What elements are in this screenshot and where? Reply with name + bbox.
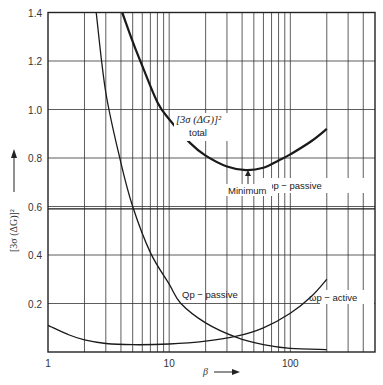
y-tick-label: 1.4 (28, 8, 42, 19)
total-curve (122, 13, 327, 171)
x-tick-label: 10 (164, 358, 176, 369)
total-label-line2: total (189, 127, 207, 138)
chart: 0.20.40.60.81.01.21.4 110100 ωp − passiv… (0, 0, 383, 385)
wp-active-label: ωp − active (309, 292, 357, 303)
y-tick-label: 1.2 (28, 56, 42, 67)
x-axis-label: β (202, 366, 208, 377)
y-axis-label: [3σ (ΔG)]² (8, 209, 20, 252)
x-tick-label: 100 (282, 358, 299, 369)
qp-passive-label: Qp − passive (182, 289, 238, 300)
y-tick-label: 0.4 (28, 250, 42, 261)
x-tick-label: 1 (45, 358, 51, 369)
y-tick-labels: 0.20.40.60.81.01.21.4 (28, 8, 42, 310)
y-tick-label: 1.0 (28, 105, 42, 116)
total-label-line1: [3σ (ΔG)]² (176, 114, 222, 126)
y-tick-label: 0.6 (28, 202, 42, 213)
wp-passive-label: ωp − passive (266, 180, 322, 191)
y-tick-label: 0.2 (28, 299, 42, 310)
minimum-label: Minimum (228, 185, 267, 196)
y-axis-arrow-icon (11, 149, 17, 158)
x-axis-arrow-icon (232, 369, 240, 375)
x-tick-labels: 110100 (45, 358, 299, 369)
y-tick-label: 0.8 (28, 153, 42, 164)
